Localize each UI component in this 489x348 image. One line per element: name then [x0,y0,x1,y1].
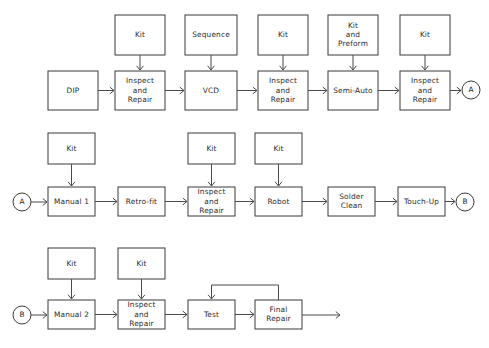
process-box-label: DIP [67,86,80,95]
process-box[interactable]: Test [188,300,235,329]
flow-arrow-horizontal [31,199,47,206]
flow-arrow-horizontal [445,198,455,205]
process-box[interactable]: DIP [48,71,98,110]
feed-arrow-vertical [208,55,215,70]
feed-arrow-vertical [280,55,287,70]
process-box-label: and [134,310,149,319]
flow-arrow-horizontal [375,198,397,205]
feeder-box-label: Kit [348,21,358,30]
process-box-label: Repair [271,95,296,104]
feeder-box-label: Kit [136,259,146,268]
feed-arrow-vertical [422,55,429,70]
connector-node[interactable]: A [462,81,480,99]
process-box-label: Repair [128,95,153,104]
connector-label: A [468,85,473,94]
flowchart-canvas: KitSequenceKitKitandPreformKitDIPInspect… [0,0,489,348]
feeder-box-label: Kit [66,259,76,268]
flow-arrow-horizontal [237,87,257,94]
process-flowchart-svg: KitSequenceKitKitandPreformKitDIPInspect… [0,0,489,348]
feeder-box-label: Preform [338,39,368,48]
process-box-label: Manual 2 [54,310,89,319]
connector-label: B [462,197,467,206]
connector-node[interactable]: A [13,193,31,211]
flow-arrow-horizontal [165,198,187,205]
flow-arrow-horizontal [95,311,117,318]
flow-arrow-horizontal [378,87,399,94]
process-box-label: Final [270,305,288,314]
process-box[interactable]: InspectandRepair [258,71,308,110]
feed-arrow-vertical [350,55,357,70]
process-box-label: Manual 1 [54,197,89,206]
flow-arrow-horizontal [95,198,117,205]
process-box-label: Semi-Auto [333,86,373,95]
process-box-label: Repair [413,95,438,104]
process-box[interactable]: Robot [255,187,302,216]
feeder-box[interactable]: Kit [115,15,165,55]
feeder-box[interactable]: Kit [188,133,235,164]
feed-arrow-vertical [208,164,215,186]
process-box-label: Inspect [126,76,154,85]
feeder-box[interactable]: Kit [118,248,165,279]
feeder-box[interactable]: Kit [48,248,95,279]
process-box-label: Inspect [269,76,297,85]
feed-arrow-vertical [275,164,282,186]
feeder-box[interactable]: Kit [400,15,450,55]
process-box[interactable]: InspectandRepair [188,187,235,216]
process-box-label: and [276,86,291,95]
feeder-box-label: Kit [206,144,216,153]
process-box[interactable]: FinalRepair [255,300,302,329]
process-box-label: Repair [266,314,291,323]
feed-arrow-vertical [68,164,75,186]
process-box-label: and [204,197,219,206]
flow-arrow-horizontal [450,87,461,94]
connector-label: B [19,310,24,319]
process-box-label: Clean [341,201,363,210]
process-box-label: Inspect [198,187,226,196]
process-box-label: Robot [267,197,289,206]
process-box[interactable]: Semi-Auto [328,71,378,110]
feeder-box[interactable]: Kit [48,133,95,164]
process-exit-arrow [302,312,340,319]
feeder-box-label: Kit [420,30,430,39]
flow-arrow-horizontal [165,311,187,318]
rework-feedback-loop [208,285,278,300]
process-box-label: Touch-Up [403,197,439,206]
process-box-label: Retro-fit [126,197,157,206]
feeder-box[interactable]: Kit [255,133,302,164]
process-box-label: Test [203,310,219,319]
connector-node[interactable]: B [456,193,474,211]
feeder-box-label: Kit [273,144,283,153]
process-box[interactable]: VCD [185,71,237,110]
feeder-box-label: Kit [278,30,288,39]
flow-arrow-horizontal [165,87,184,94]
flow-arrow-horizontal [235,198,254,205]
connector-node[interactable]: B [13,306,31,324]
process-box[interactable]: Manual 2 [48,300,95,329]
process-box[interactable]: InspectandRepair [400,71,450,110]
feeder-box[interactable]: Sequence [185,15,237,55]
flow-arrow-horizontal [235,311,254,318]
process-box[interactable]: Manual 1 [48,187,95,216]
process-box-label: and [133,86,148,95]
process-box-label: Repair [129,319,154,328]
feed-arrow-vertical [68,279,75,299]
feeder-box[interactable]: KitandPreform [328,15,378,55]
process-box[interactable]: InspectandRepair [115,71,165,110]
feeder-box-label: Sequence [192,30,230,39]
process-box-label: VCD [203,86,220,95]
process-box-label: Inspect [411,76,439,85]
process-box-label: Solder [339,192,364,201]
flow-arrow-horizontal [98,87,114,94]
process-box[interactable]: Touch-Up [398,187,445,216]
flow-arrow-horizontal [308,87,327,94]
flow-arrow-horizontal [31,312,47,319]
feed-arrow-vertical [137,55,144,70]
feeder-box[interactable]: Kit [258,15,308,55]
process-box-label: and [418,86,433,95]
feeder-box-label: and [346,30,361,39]
process-box[interactable]: Retro-fit [118,187,165,216]
process-box[interactable]: InspectandRepair [118,300,165,329]
process-box-label: Repair [199,206,224,215]
process-box[interactable]: SolderClean [328,187,375,216]
feeder-box-label: Kit [135,30,145,39]
